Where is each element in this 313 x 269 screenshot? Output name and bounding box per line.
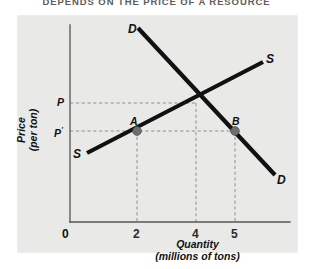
x-axis-title-line1: Quantity: [120, 238, 275, 250]
y-tick-label-p-prime: P': [54, 126, 63, 138]
supply-curve: [87, 62, 263, 153]
supply-curve-label-top: S: [266, 53, 274, 65]
supply-demand-plot: [0, 0, 313, 269]
y-axis-title: Price (per ton): [15, 94, 39, 166]
point-label-a: A: [130, 116, 138, 127]
y-tick-label-p: P: [57, 97, 64, 108]
y-tick-prime-mark: ': [61, 125, 63, 134]
supply-curve-label-bottom: S: [73, 148, 81, 160]
point-marker-b: [231, 127, 240, 136]
demand-curve: [138, 28, 275, 175]
point-marker-a: [133, 127, 142, 136]
demand-curve-label-bottom: D: [277, 174, 286, 186]
y-axis-title-line2: (per ton): [27, 94, 39, 166]
y-tick-p-base: P: [54, 127, 61, 139]
x-axis-title: Quantity (millions of tons): [120, 238, 275, 262]
axis-lines: [70, 25, 290, 222]
x-tick-label-origin: 0: [62, 228, 69, 240]
x-axis-title-line2: (millions of tons): [120, 250, 275, 262]
y-axis-title-line1: Price: [15, 94, 27, 166]
demand-curve-label-top: D: [128, 23, 137, 35]
point-label-b: B: [232, 116, 240, 127]
